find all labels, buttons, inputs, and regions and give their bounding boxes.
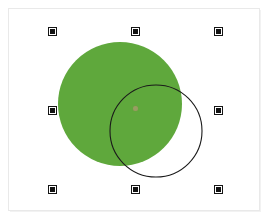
handle-middle-right[interactable] [215,107,222,114]
handle-middle-left[interactable] [49,107,56,114]
handle-top-left[interactable] [49,28,56,35]
artboard[interactable] [0,0,268,219]
handle-bottom-right[interactable] [215,186,222,193]
handle-top-center[interactable] [132,28,139,35]
graphics-editor-canvas-screenshot [0,0,268,219]
green-filled-circle[interactable] [58,42,182,166]
handle-top-right[interactable] [215,28,222,35]
handle-bottom-center[interactable] [132,186,139,193]
rotation-center-marker[interactable] [133,106,138,111]
handle-bottom-left[interactable] [49,186,56,193]
